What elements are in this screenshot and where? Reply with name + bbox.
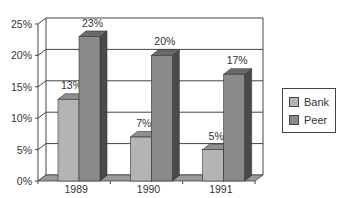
legend-label-peer: Peer	[304, 114, 327, 126]
data-label: 20%	[154, 35, 175, 47]
x-tick-label: 1991	[209, 183, 233, 195]
y-tick-label: 0%	[17, 175, 32, 187]
bar-bank-1991	[203, 150, 224, 181]
legend-item-bank: Bank	[289, 96, 329, 108]
legend-item-peer: Peer	[289, 114, 327, 126]
bar-bank-1990	[130, 137, 151, 181]
data-label: 7%	[136, 117, 151, 129]
data-label: 23%	[82, 17, 103, 29]
x-tick-label: 1989	[64, 183, 88, 195]
y-tick-label: 15%	[11, 81, 32, 93]
data-label: 5%	[209, 130, 224, 142]
bar-peer-1991	[224, 74, 245, 181]
y-tick-label: 10%	[11, 112, 32, 124]
y-tick-label: 5%	[17, 144, 32, 156]
legend-label-bank: Bank	[304, 96, 329, 108]
bar-bank-1989	[58, 99, 79, 181]
legend-swatch-bank	[289, 97, 299, 107]
x-tick-label: 1990	[137, 183, 161, 195]
legend-swatch-peer	[289, 115, 299, 125]
bar-peer-1989	[79, 37, 100, 181]
data-label: 17%	[227, 54, 248, 66]
y-tick-label: 20%	[11, 49, 32, 61]
chart-legend: Bank Peer	[282, 88, 336, 133]
y-tick-label: 25%	[11, 18, 32, 30]
bar-peer-1990	[151, 55, 172, 181]
